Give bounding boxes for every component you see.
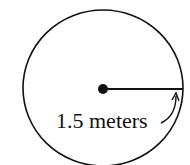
center-point xyxy=(98,84,108,94)
circle-diagram: 1.5 meters xyxy=(0,0,190,165)
radius-label: 1.5 meters xyxy=(56,108,148,133)
diagram-svg: 1.5 meters xyxy=(0,0,190,165)
arrow-curve xyxy=(161,96,176,123)
